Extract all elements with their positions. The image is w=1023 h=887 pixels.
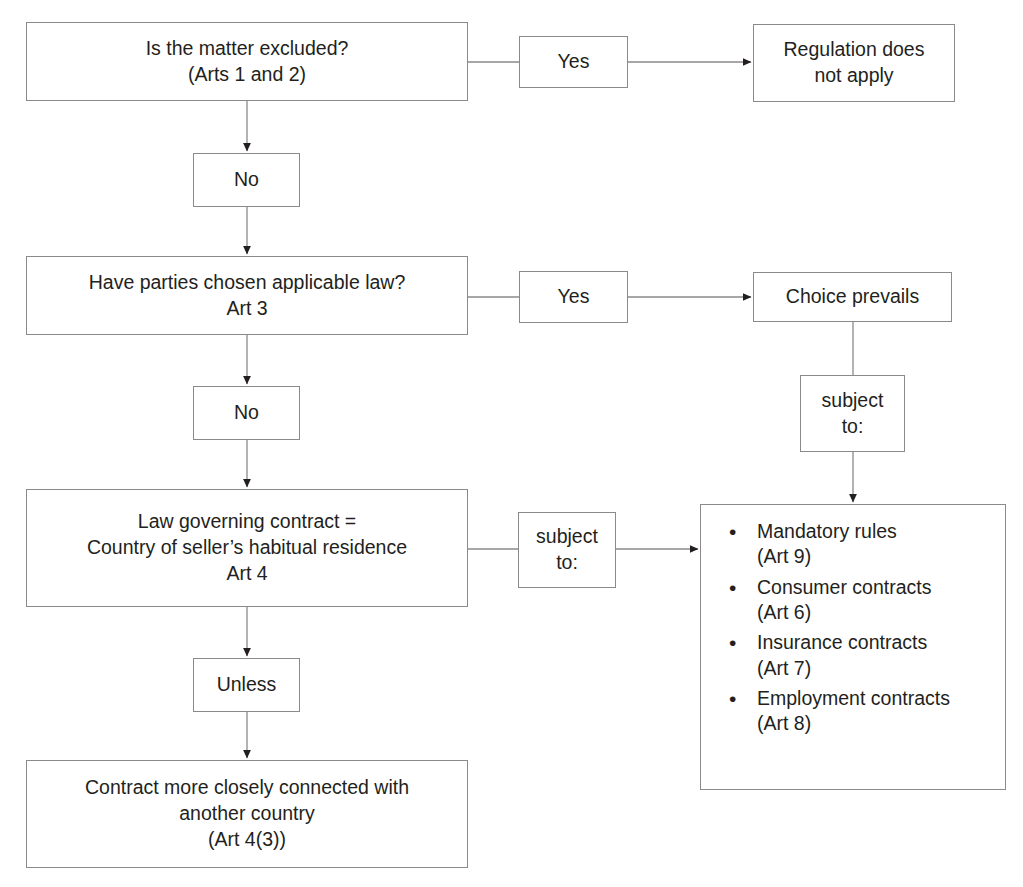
label-no-matter-excluded[interactable]: No bbox=[193, 153, 300, 207]
list-item[interactable]: Insurance contracts (Art 7) bbox=[711, 630, 995, 681]
label-subject-to-art4[interactable]: subject to: bbox=[518, 512, 616, 588]
label-subject-to-choice[interactable]: subject to: bbox=[800, 375, 905, 452]
label-unless-text: Unless bbox=[211, 672, 283, 698]
list-item[interactable]: Mandatory rules (Art 9) bbox=[711, 519, 995, 570]
node-choice-prevails-label: Choice prevails bbox=[780, 284, 925, 310]
label-yes-parties-chosen-law-text: Yes bbox=[552, 284, 596, 310]
label-unless[interactable]: Unless bbox=[193, 658, 300, 712]
node-regulation-does-not-apply[interactable]: Regulation does not apply bbox=[753, 24, 955, 102]
node-closer-connection-label: Contract more closely connected with ano… bbox=[79, 775, 415, 852]
node-law-governing-contract[interactable]: Law governing contract = Country of sell… bbox=[26, 489, 468, 607]
label-no-parties-chosen-law-text: No bbox=[228, 400, 265, 426]
node-regulation-does-not-apply-label: Regulation does not apply bbox=[778, 37, 931, 88]
label-no-parties-chosen-law[interactable]: No bbox=[193, 386, 300, 440]
node-matter-excluded-label: Is the matter excluded? (Arts 1 and 2) bbox=[140, 36, 355, 87]
node-parties-chosen-law-label: Have parties chosen applicable law? Art … bbox=[83, 270, 412, 321]
list-item[interactable]: Consumer contracts (Art 6) bbox=[711, 575, 995, 626]
node-closer-connection[interactable]: Contract more closely connected with ano… bbox=[26, 760, 468, 868]
node-matter-excluded[interactable]: Is the matter excluded? (Arts 1 and 2) bbox=[26, 22, 468, 101]
label-subject-to-art4-text: subject to: bbox=[530, 524, 604, 575]
node-law-governing-contract-label: Law governing contract = Country of sell… bbox=[81, 509, 413, 586]
flowchart-canvas: Is the matter excluded? (Arts 1 and 2) Y… bbox=[0, 0, 1023, 887]
list-item[interactable]: Employment contracts (Art 8) bbox=[711, 686, 995, 737]
node-parties-chosen-law[interactable]: Have parties chosen applicable law? Art … bbox=[26, 256, 468, 335]
label-no-matter-excluded-text: No bbox=[228, 167, 265, 193]
exceptions-bullet-list: Mandatory rules (Art 9) Consumer contrac… bbox=[711, 519, 995, 742]
label-yes-matter-excluded-text: Yes bbox=[552, 49, 596, 75]
node-choice-prevails[interactable]: Choice prevails bbox=[753, 272, 952, 322]
label-yes-parties-chosen-law[interactable]: Yes bbox=[519, 271, 628, 323]
node-exceptions-list[interactable]: Mandatory rules (Art 9) Consumer contrac… bbox=[700, 504, 1006, 790]
label-yes-matter-excluded[interactable]: Yes bbox=[519, 36, 628, 88]
label-subject-to-choice-text: subject to: bbox=[816, 388, 890, 439]
